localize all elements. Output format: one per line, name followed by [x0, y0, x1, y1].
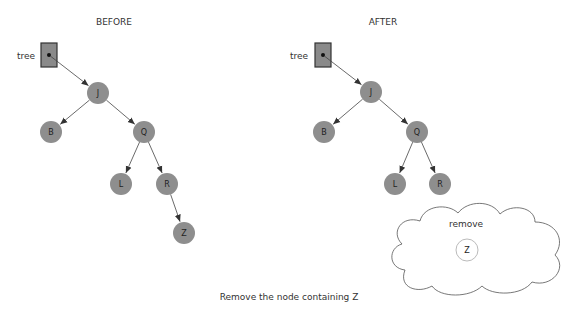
before-edge-J-B — [60, 100, 89, 124]
after-pointer-dot — [321, 53, 325, 57]
before-edge-Q-R — [148, 142, 162, 173]
after-pointer-label: tree — [290, 51, 308, 61]
after-title: AFTER — [369, 17, 398, 27]
before-node-label: L — [119, 180, 124, 189]
after-node-label: L — [393, 180, 398, 189]
before-node-label: J — [96, 89, 99, 98]
caption: Remove the node containing Z — [220, 292, 359, 302]
before-pointer-dot — [47, 53, 51, 57]
before-edge-R-Z — [171, 194, 180, 221]
removed-node-label: Z — [464, 246, 470, 255]
before-title: BEFORE — [96, 17, 132, 27]
before-pointer-arrow — [51, 56, 89, 85]
tree-diagram: JBQLRZ JBQLR Z — [0, 0, 573, 316]
before-node-label: Z — [181, 229, 187, 238]
after-tree: JBQLR — [313, 43, 451, 195]
after-edge-J-Q — [379, 99, 408, 124]
removed-cloud: Z — [392, 203, 560, 295]
remove-label: remove — [449, 219, 483, 229]
after-node-label: B — [321, 128, 327, 137]
after-pointer-arrow — [325, 56, 362, 84]
before-node-label: B — [48, 128, 54, 137]
before-tree: JBQLRZ — [40, 43, 195, 244]
before-pointer-label: tree — [17, 51, 35, 61]
before-node-label: R — [164, 180, 170, 189]
after-edge-J-B — [333, 99, 362, 124]
after-node-label: J — [369, 88, 372, 97]
after-edge-Q-R — [421, 142, 435, 173]
after-node-label: Q — [414, 128, 420, 137]
after-edge-Q-L — [400, 142, 413, 173]
before-edge-J-Q — [106, 100, 134, 124]
before-edge-Q-L — [126, 142, 140, 173]
after-node-label: R — [437, 180, 443, 189]
before-node-label: Q — [141, 128, 147, 137]
